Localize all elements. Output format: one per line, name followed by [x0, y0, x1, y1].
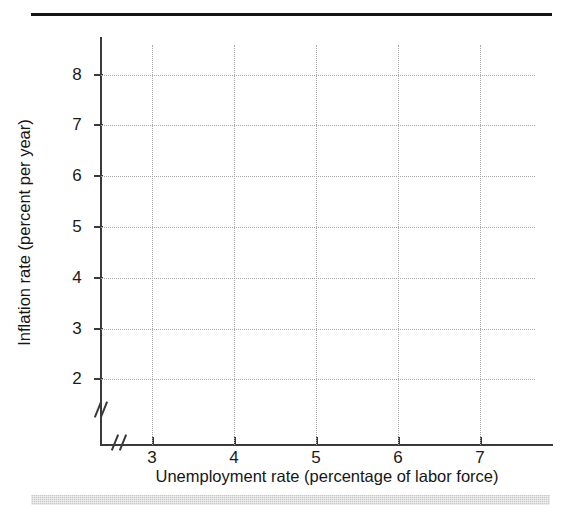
gridline-horizontal: [101, 278, 535, 279]
gridline-horizontal: [101, 379, 535, 380]
x-tick-label: 5: [302, 449, 330, 466]
y-tick-label: 8: [56, 66, 82, 83]
gridline-vertical: [316, 45, 317, 445]
figure-container: Inflation rate (percent per year) 8 7 6 …: [0, 0, 578, 519]
y-tick-label: 6: [56, 167, 82, 184]
gridline-horizontal: [101, 75, 535, 76]
y-axis-title: Inflation rate (percent per year): [15, 23, 34, 443]
gridline-vertical: [234, 45, 235, 445]
y-tick-label: 5: [56, 218, 82, 235]
gridline-vertical: [398, 45, 399, 445]
gridline-vertical: [480, 45, 481, 445]
footer-bar: [31, 495, 550, 505]
y-tick-label: 2: [56, 370, 82, 387]
y-tick-label: 4: [56, 269, 82, 286]
x-tick-label: 4: [220, 449, 248, 466]
x-tick-label: 3: [138, 449, 166, 466]
top-rule-divider: [31, 13, 552, 16]
x-axis-title: Unemployment rate (percentage of labor f…: [101, 467, 553, 486]
gridline-horizontal: [101, 227, 535, 228]
gridline-vertical: [152, 45, 153, 445]
x-tick-label: 7: [466, 449, 494, 466]
gridline-horizontal: [101, 125, 535, 126]
y-tick-label: 3: [56, 320, 82, 337]
x-tick-label: 6: [384, 449, 412, 466]
gridline-horizontal: [101, 176, 535, 177]
plot-area: [101, 37, 553, 445]
y-tick-label: 7: [56, 116, 82, 133]
gridline-horizontal: [101, 329, 535, 330]
